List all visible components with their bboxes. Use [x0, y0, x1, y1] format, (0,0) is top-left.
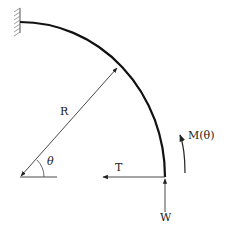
angle-arc [37, 160, 44, 177]
angle-label: θ [47, 155, 54, 168]
radius-arrow [21, 68, 117, 176]
tension-label: T [115, 161, 123, 174]
moment-arrow [180, 135, 185, 173]
curved-beam [20, 22, 165, 177]
weight-label: W [160, 211, 172, 224]
diagram-canvas: R θ T W M(θ) [0, 0, 226, 241]
fixed-support-wall [14, 8, 20, 36]
moment-label: M(θ) [188, 129, 214, 142]
beam-diagram: R θ T W M(θ) [0, 0, 226, 241]
radius-label: R [60, 105, 69, 118]
